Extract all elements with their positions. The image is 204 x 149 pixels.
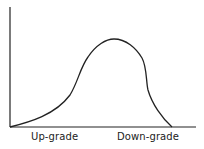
up-grade-label: Up-grade — [31, 131, 78, 142]
distribution-curve — [10, 39, 172, 127]
curve-diagram: Up-grade Down-grade — [0, 0, 204, 149]
diagram-svg — [0, 0, 204, 149]
down-grade-label: Down-grade — [117, 131, 179, 142]
